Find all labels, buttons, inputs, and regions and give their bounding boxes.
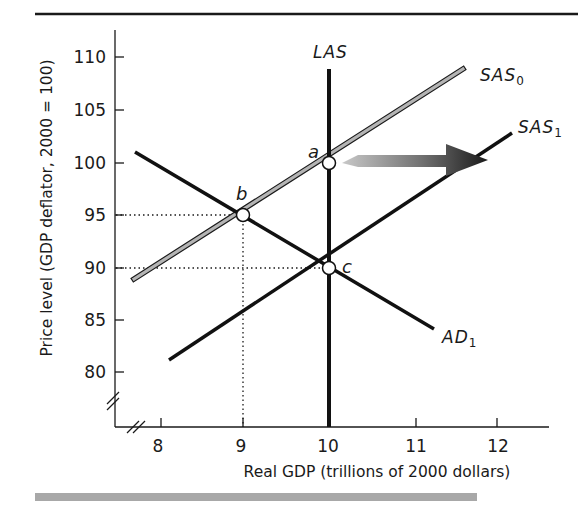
- x-axis-title: Real GDP (trillions of 2000 dollars): [244, 463, 511, 481]
- y-axis-title: Price level (GDP deflator, 2000 = 100): [38, 59, 56, 356]
- point-b-label: b: [236, 183, 247, 204]
- svg-text:95: 95: [84, 205, 106, 225]
- shift-arrow-icon: [342, 144, 488, 176]
- point-a: [323, 157, 336, 170]
- svg-text:10: 10: [317, 436, 339, 456]
- point-c: [323, 262, 336, 275]
- ad1-label: AD1: [441, 327, 477, 350]
- svg-text:8: 8: [153, 436, 164, 456]
- point-b: [237, 209, 250, 222]
- ad1-curve: [135, 152, 434, 329]
- svg-text:105: 105: [74, 100, 106, 120]
- equilibrium-points: [237, 157, 336, 275]
- svg-text:80: 80: [84, 362, 106, 382]
- svg-text:12: 12: [487, 436, 509, 456]
- svg-text:11: 11: [405, 436, 427, 456]
- sas0-label: SAS0: [480, 65, 525, 88]
- x-tick-labels: 8 9 10 11 12: [153, 436, 509, 456]
- aggregate-supply-demand-chart: 110 105 100 95 90 85 80 8 9 10 11 12 Rea…: [0, 0, 588, 514]
- svg-text:100: 100: [74, 153, 106, 173]
- point-c-label: c: [342, 256, 352, 277]
- svg-text:85: 85: [84, 310, 106, 330]
- y-tick-labels: 110 105 100 95 90 85 80: [74, 47, 106, 382]
- las-label: LAS: [313, 42, 348, 62]
- svg-text:110: 110: [74, 47, 106, 67]
- svg-text:90: 90: [84, 258, 106, 278]
- y-axis-break: [107, 392, 119, 404]
- point-a-label: a: [308, 141, 319, 162]
- svg-text:9: 9: [236, 436, 247, 456]
- footer-rule: [35, 493, 477, 501]
- sas1-label: SAS1: [518, 117, 563, 140]
